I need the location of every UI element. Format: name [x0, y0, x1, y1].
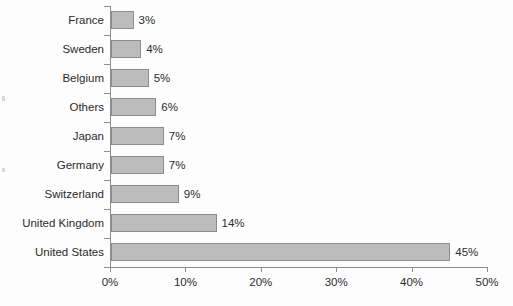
bars-container: 3%4%5%6%7%7%9%14%45%: [110, 6, 490, 267]
bar: [111, 98, 156, 116]
category-label-belgium: Belgium: [0, 64, 104, 93]
y-axis-tick: [104, 6, 110, 7]
x-axis-label: 50%: [475, 276, 498, 288]
category-label-germany: Germany: [0, 151, 104, 180]
bar: [111, 243, 450, 261]
y-axis-tick: [104, 35, 110, 36]
x-axis-label: 40%: [400, 276, 423, 288]
bar: [111, 69, 149, 87]
y-axis-tick: [104, 238, 110, 239]
bar-row: 14%: [110, 209, 490, 238]
category-label-text: Japan: [4, 122, 104, 151]
x-axis-tick: [185, 268, 186, 272]
category-label-text: Sweden: [4, 35, 104, 64]
category-label-united-states: United States: [0, 238, 104, 267]
y-axis-tick: [104, 151, 110, 152]
x-axis-label: 20%: [249, 276, 272, 288]
bar: [111, 185, 179, 203]
y-axis-tick: [104, 209, 110, 210]
bar-value-label: 6%: [161, 98, 178, 116]
bar-value-label: 5%: [154, 69, 171, 87]
category-labels: FranceSwedenBelgiumOthersJapanGermanySwi…: [0, 6, 104, 267]
x-axis-line: [110, 267, 488, 268]
category-label-text: Germany: [4, 151, 104, 180]
bar-value-label: 3%: [139, 11, 156, 29]
bar-row: 7%: [110, 122, 490, 151]
category-label-france: France: [0, 6, 104, 35]
category-label-text: France: [4, 6, 104, 35]
bar: [111, 127, 164, 145]
category-label-text: Belgium: [4, 64, 104, 93]
bar: [111, 11, 134, 29]
x-axis-label: 10%: [174, 276, 197, 288]
y-axis-tick: [104, 93, 110, 94]
bar-row: 5%: [110, 64, 490, 93]
x-axis-label: 30%: [325, 276, 348, 288]
category-label-switzerland: Switzerland: [0, 180, 104, 209]
bar-row: 7%: [110, 151, 490, 180]
x-axis-tick: [487, 268, 488, 272]
bar: [111, 156, 164, 174]
x-axis-label: 0%: [102, 276, 119, 288]
bar-value-label: 45%: [455, 243, 478, 261]
category-label-text: Others: [4, 93, 104, 122]
category-label-text: United Kingdom: [4, 209, 104, 238]
bar-row: 6%: [110, 93, 490, 122]
x-axis-tick: [336, 268, 337, 272]
category-label-sweden: Sweden: [0, 35, 104, 64]
y-axis-tick: [104, 180, 110, 181]
bar-value-label: 14%: [222, 214, 245, 232]
category-label-text: Switzerland: [4, 180, 104, 209]
bar-value-label: 7%: [169, 127, 186, 145]
bar-chart: FranceSwedenBelgiumOthersJapanGermanySwi…: [0, 0, 513, 306]
bar-row: 9%: [110, 180, 490, 209]
category-label-others: Others: [0, 93, 104, 122]
y-axis-tick: [104, 122, 110, 123]
y-axis-tick: [104, 64, 110, 65]
bar-row: 3%: [110, 6, 490, 35]
x-axis-tick: [261, 268, 262, 272]
category-label-japan: Japan: [0, 122, 104, 151]
category-label-text: United States: [4, 238, 104, 267]
bar-value-label: 9%: [184, 185, 201, 203]
bar: [111, 214, 217, 232]
x-axis-tick: [412, 268, 413, 272]
x-axis-tick: [110, 268, 111, 272]
bar-value-label: 4%: [146, 40, 163, 58]
bar-row: 4%: [110, 35, 490, 64]
bar-row: 45%: [110, 238, 490, 267]
bar: [111, 40, 141, 58]
category-label-united-kingdom: United Kingdom: [0, 209, 104, 238]
bar-value-label: 7%: [169, 156, 186, 174]
